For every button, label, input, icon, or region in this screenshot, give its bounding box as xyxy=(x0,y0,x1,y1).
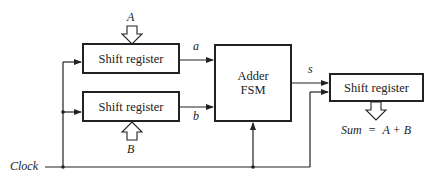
signal-b-label: b xyxy=(193,109,199,124)
sum-label: Sum xyxy=(341,123,362,137)
output-sum-arrow xyxy=(366,102,386,120)
equals-sign: = xyxy=(369,123,376,137)
sum-equation: Sum = A + B xyxy=(341,123,411,138)
shift-register-a: Shift register xyxy=(82,43,180,74)
input-a-label: A xyxy=(127,10,134,25)
shift-register-b: Shift register xyxy=(82,91,180,122)
adder-fsm-label-2: FSM xyxy=(240,83,265,97)
shift-register-a-label: Shift register xyxy=(99,52,164,66)
clock-label: Clock xyxy=(10,159,38,174)
shift-register-sum-label: Shift register xyxy=(344,81,409,95)
input-b-label: B xyxy=(127,142,134,157)
signal-s-label: s xyxy=(308,62,313,77)
shift-register-sum: Shift register xyxy=(329,73,424,102)
signal-a-label: a xyxy=(193,39,199,54)
sum-expression: A + B xyxy=(382,123,411,137)
shift-register-b-label: Shift register xyxy=(99,100,164,114)
adder-fsm-label-1: Adder xyxy=(237,69,268,83)
input-b-arrow xyxy=(122,122,142,140)
input-a-arrow xyxy=(122,26,142,44)
adder-fsm: Adder FSM xyxy=(214,44,292,122)
